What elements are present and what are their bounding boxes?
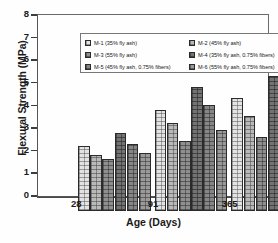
bar	[203, 105, 215, 211]
legend-swatch-icon	[189, 52, 195, 58]
x-tick-label: 91	[123, 198, 183, 209]
legend-label: M-3 (55% fly ash)	[94, 52, 137, 58]
y-tick-label: 8	[24, 8, 29, 19]
x-tick-label: 28	[46, 198, 106, 209]
legend-swatch-icon	[85, 52, 91, 58]
y-tick-label: 0	[24, 189, 29, 200]
x-tick-label: 365	[200, 198, 260, 209]
legend-item-m6: M-6 (55% fly ash, 0.75% fibers)	[189, 64, 278, 70]
legend-label: M-5 (45% fly ash, 0.75% fibers)	[94, 64, 170, 70]
legend-item-m4: M-4 (35% fly ash, 0.75% fibers)	[189, 52, 278, 58]
y-tick-label: 3	[24, 121, 29, 132]
legend-item-m2: M-2 (45% fly ash)	[189, 40, 278, 46]
y-tick-label: 6	[24, 53, 29, 64]
bar	[268, 76, 278, 211]
bar	[231, 98, 243, 211]
legend-label: M-6 (55% fly ash, 0.75% fibers)	[198, 64, 274, 70]
legend-swatch-icon	[85, 64, 91, 70]
legend-swatch-icon	[189, 64, 195, 70]
bar	[191, 87, 203, 211]
legend: M-1 (35% fly ash) M-2 (45% fly ash) M-3 …	[80, 33, 278, 73]
bar	[244, 116, 256, 211]
plot-area: M-1 (35% fly ash) M-2 (45% fly ash) M-3 …	[37, 14, 269, 197]
legend-row: M-3 (55% fly ash) M-4 (35% fly ash, 0.75…	[85, 49, 278, 61]
x-axis-title: Age (Days)	[37, 216, 270, 228]
legend-row: M-5 (45% fly ash, 0.75% fibers) M-6 (55%…	[85, 61, 278, 73]
legend-label: M-1 (35% fly ash)	[94, 40, 137, 46]
legend-label: M-2 (45% fly ash)	[198, 40, 241, 46]
legend-swatch-icon	[189, 40, 195, 46]
y-tick-label: 4	[24, 99, 29, 110]
legend-item-m1: M-1 (35% fly ash)	[85, 40, 189, 46]
legend-label: M-4 (35% fly ash, 0.75% fibers)	[198, 52, 274, 58]
flexural-strength-bar-chart: Flexural Strength (MPa) 012345678 M-1 (3…	[0, 0, 278, 243]
bar	[155, 110, 167, 211]
y-tick-label: 5	[24, 76, 29, 87]
legend-item-m3: M-3 (55% fly ash)	[85, 52, 189, 58]
legend-item-m5: M-5 (45% fly ash, 0.75% fibers)	[85, 64, 189, 70]
legend-row: M-1 (35% fly ash) M-2 (45% fly ash)	[85, 37, 278, 49]
y-tick-label: 2	[24, 144, 29, 155]
y-tick-label: 1	[24, 166, 29, 177]
y-tick-label: 7	[24, 31, 29, 42]
legend-swatch-icon	[85, 40, 91, 46]
